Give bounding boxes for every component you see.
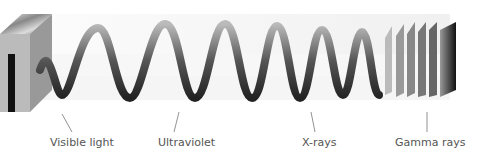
label-ultraviolet: Ultraviolet — [158, 136, 215, 149]
label-gamma-rays: Gamma rays — [395, 136, 465, 149]
leader-lines — [62, 112, 427, 132]
label-x-rays: X-rays — [302, 136, 336, 149]
label-visible-light: Visible light — [50, 136, 114, 149]
